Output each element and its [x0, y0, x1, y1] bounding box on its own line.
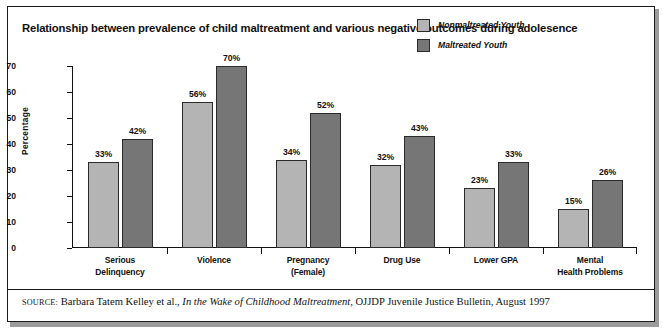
bar-group: 56%70%: [178, 66, 251, 248]
bar-maltreated: [404, 136, 435, 248]
y-tick-label: 70: [0, 61, 16, 71]
bar-value-label: 34%: [271, 147, 313, 157]
source-publication: , OJJDP Juvenile Justice Bulletin, Augus…: [350, 296, 550, 307]
x-tick: [261, 248, 262, 254]
bar-group: 34%52%: [272, 66, 345, 248]
x-axis-label-line: (Female): [248, 267, 368, 279]
bar-group: 15%26%: [554, 66, 627, 248]
legend-swatch-nonmaltreated: [417, 19, 430, 32]
x-tick: [449, 248, 450, 254]
bar-group: 32%43%: [366, 66, 439, 248]
bar-value-label: 26%: [587, 167, 629, 177]
bar-maltreated: [498, 162, 529, 248]
y-tick: [67, 170, 72, 171]
bar-nonmaltreated: [558, 209, 589, 248]
legend-swatch-maltreated: [417, 39, 430, 52]
bar-nonmaltreated: [88, 162, 119, 248]
y-tick-label: 20: [0, 191, 16, 201]
bar-value-label: 33%: [83, 149, 125, 159]
bar-value-label: 32%: [365, 152, 407, 162]
bar-value-label: 56%: [177, 89, 219, 99]
source-authors: Barbara Tatem Kelley et al.,: [58, 296, 182, 307]
x-axis-label-line: Health Problems: [530, 267, 650, 279]
source-note: SOURCE: Barbara Tatem Kelley et al., In …: [22, 296, 550, 307]
bar-group: 33%42%: [84, 66, 157, 248]
bar-nonmaltreated: [370, 165, 401, 248]
y-tick-label: 50: [0, 113, 16, 123]
legend-label-maltreated: Maltreated Youth: [438, 40, 507, 50]
y-tick: [67, 66, 72, 67]
source-work-title: In the Wake of Childhood Maltreatment: [182, 296, 350, 307]
x-tick: [636, 248, 637, 254]
bar-nonmaltreated: [276, 160, 307, 248]
bars-container: 33%42%56%70%34%52%32%43%23%33%15%26%: [73, 66, 637, 248]
bar-value-label: 52%: [305, 100, 347, 110]
y-tick-label: 60: [0, 87, 16, 97]
x-axis-category-label: MentalHealth Problems: [530, 255, 650, 278]
bar-value-label: 43%: [399, 123, 441, 133]
x-axis-label-line: Delinquency: [60, 267, 180, 279]
plot-area: Percentage 010203040506070 33%42%56%70%3…: [22, 55, 638, 260]
bar-value-label: 33%: [493, 149, 535, 159]
bar-maltreated: [592, 180, 623, 248]
bar-value-label: 23%: [459, 175, 501, 185]
y-tick-label: 10: [0, 217, 16, 227]
y-tick-label: 0: [0, 243, 16, 253]
y-tick: [67, 144, 72, 145]
y-tick: [67, 196, 72, 197]
legend-label-nonmaltreated: Nonmaltreated Youth: [438, 20, 524, 30]
source-prefix: SOURCE:: [22, 298, 58, 307]
y-tick: [67, 248, 72, 249]
y-tick-label: 40: [0, 139, 16, 149]
footer-divider: [8, 289, 654, 290]
bar-value-label: 42%: [117, 126, 159, 136]
x-tick: [543, 248, 544, 254]
bar-value-label: 15%: [553, 196, 595, 206]
bar-maltreated: [310, 113, 341, 248]
y-tick: [67, 92, 72, 93]
bar-value-label: 70%: [211, 53, 253, 63]
y-tick-label: 30: [0, 165, 16, 175]
bar-nonmaltreated: [464, 188, 495, 248]
bar-nonmaltreated: [182, 102, 213, 248]
x-tick: [355, 248, 356, 254]
y-axis-title: Percentage: [20, 107, 30, 155]
y-tick: [67, 222, 72, 223]
x-tick: [167, 248, 168, 254]
chart-figure: Relationship between prevalence of child…: [0, 0, 663, 333]
y-tick: [67, 118, 72, 119]
bar-group: 23%33%: [460, 66, 533, 248]
bar-maltreated: [216, 66, 247, 248]
bar-maltreated: [122, 139, 153, 248]
x-axis-label-line: Mental: [530, 255, 650, 267]
